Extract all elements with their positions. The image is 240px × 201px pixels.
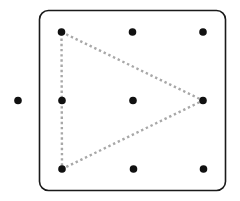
dot-grid-diagram [0, 0, 240, 201]
grid-dot-r3c1 [58, 165, 66, 173]
grid-dot-r2c1 [58, 97, 66, 105]
grid-dot-r3c3 [200, 165, 208, 173]
grid-dot-r1c2 [129, 28, 137, 36]
grid-dot-r1c1 [58, 28, 66, 36]
grid-dot-r1c3 [199, 28, 207, 36]
grid-dots [58, 28, 208, 173]
grid-dot-r2c3 [199, 97, 207, 105]
outside-dot [14, 97, 22, 105]
grid-dot-r2c2 [129, 97, 137, 105]
grid-dot-r3c2 [130, 165, 138, 173]
